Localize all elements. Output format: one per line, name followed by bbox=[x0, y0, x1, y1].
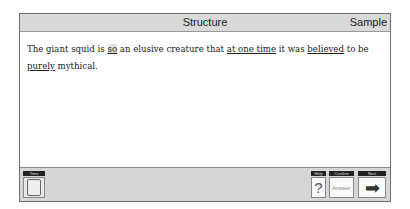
section-title: Structure bbox=[20, 16, 390, 28]
next-button[interactable]: Next ➡ bbox=[358, 171, 386, 198]
clock-icon bbox=[27, 179, 41, 196]
time-label: Time bbox=[23, 171, 45, 176]
help-button[interactable]: Help ? bbox=[311, 171, 326, 198]
help-label: Help bbox=[311, 171, 326, 176]
answer-button: Answer bbox=[329, 177, 354, 198]
answer-option-believed[interactable]: believed bbox=[307, 44, 344, 54]
question-text: The giant squid is so an elusive creatur… bbox=[27, 41, 383, 75]
toolbar: Time Help ? Confirm Answer Next ➡ bbox=[20, 167, 390, 201]
answer-option-so[interactable]: so bbox=[108, 44, 118, 54]
section-type: Sample bbox=[350, 16, 387, 28]
arrow-right-icon: ➡ bbox=[358, 177, 386, 198]
text-segment: it was bbox=[276, 44, 307, 54]
test-window: Structure Sample The giant squid is so a… bbox=[19, 13, 391, 202]
text-segment: mythical. bbox=[55, 61, 98, 71]
text-segment: The giant squid is bbox=[27, 44, 108, 54]
text-segment: to be bbox=[344, 44, 369, 54]
answer-option-at-one-time[interactable]: at one time bbox=[227, 44, 276, 54]
confirm-button[interactable]: Confirm Answer bbox=[329, 171, 354, 198]
text-segment: an elusive creature that bbox=[117, 44, 227, 54]
title-bar: Structure Sample bbox=[20, 14, 390, 32]
time-button[interactable]: Time bbox=[23, 171, 45, 198]
answer-option-purely[interactable]: purely bbox=[27, 61, 55, 71]
next-label: Next bbox=[358, 171, 386, 176]
question-mark-icon: ? bbox=[311, 177, 326, 198]
confirm-label: Confirm bbox=[329, 171, 354, 176]
